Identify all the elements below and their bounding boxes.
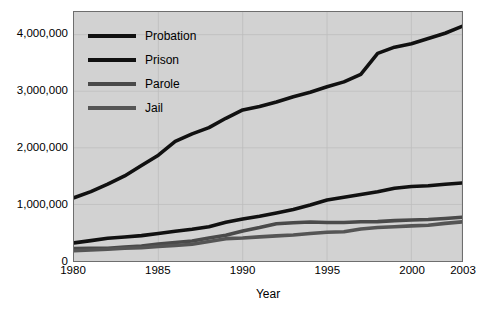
legend-item-label: Prison (145, 54, 179, 66)
legend-item-jail: Jail (88, 96, 238, 120)
y-tick-label: 0 (2, 256, 68, 267)
line-chart: 01,000,0002,000,0003,000,0004,000,000 Pr… (0, 0, 487, 318)
legend-item-probation: Probation (88, 24, 238, 48)
y-axis: 01,000,0002,000,0003,000,0004,000,000 (0, 11, 68, 262)
legend-item-parole: Parole (88, 72, 238, 96)
x-tick-label: 2000 (399, 264, 425, 277)
legend-swatch-icon (88, 106, 136, 110)
series-line-parole (74, 217, 462, 248)
legend-item-label: Jail (145, 102, 163, 114)
x-axis-title: Year (73, 287, 463, 301)
x-tick-label: 2003 (450, 264, 476, 277)
x-tick-label: 1990 (230, 264, 256, 277)
x-tick-label: 1980 (60, 264, 86, 277)
series-line-prison (74, 183, 462, 243)
y-tick-label: 4,000,000 (2, 28, 68, 39)
legend-item-label: Probation (145, 30, 196, 42)
legend-swatch-icon (88, 34, 136, 38)
legend-item-label: Parole (145, 78, 180, 90)
legend-swatch-icon (88, 58, 136, 62)
y-tick-label: 3,000,000 (2, 85, 68, 96)
y-tick-label: 2,000,000 (2, 142, 68, 153)
chart-legend: ProbationPrisonParoleJail (88, 24, 238, 120)
x-axis: 198019851990199520002003 (73, 264, 463, 280)
legend-swatch-icon (88, 82, 136, 86)
x-tick-label: 1985 (145, 264, 171, 277)
legend-item-prison: Prison (88, 48, 238, 72)
y-tick-label: 1,000,000 (2, 199, 68, 210)
x-tick-label: 1995 (315, 264, 341, 277)
